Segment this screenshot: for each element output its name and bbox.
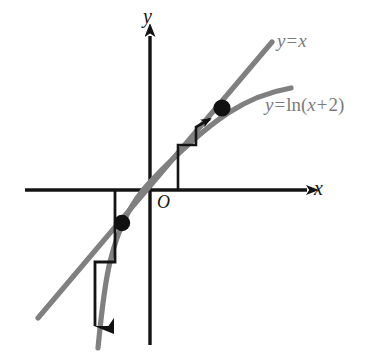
log-label-close-paren: ) — [338, 94, 344, 115]
log-label-equals: = — [273, 94, 286, 115]
log-label-function: ln — [286, 94, 301, 115]
identity-line-label: y=x — [277, 31, 307, 50]
upper-intersection-dot — [213, 99, 230, 116]
log-label-variable: x — [307, 94, 315, 115]
log-label-constant: 2 — [328, 94, 338, 115]
y-axis-label-text: y — [143, 5, 152, 27]
lower-intersection-dot — [114, 215, 130, 231]
origin-label: O — [157, 193, 170, 211]
identity-label-rhs: x — [298, 30, 306, 51]
math-figure: y x O y=x y=ln(x+2) — [0, 0, 387, 364]
y-axis-label: y — [143, 6, 152, 26]
x-axis-label-text: x — [314, 177, 323, 199]
origin-label-text: O — [157, 192, 170, 212]
logarithm-curve-label: y=ln(x+2) — [265, 95, 344, 114]
identity-label-equals: = — [285, 30, 298, 51]
log-label-plus: + — [316, 94, 329, 115]
figure-canvas — [0, 0, 387, 364]
x-axis-label: x — [314, 178, 323, 198]
